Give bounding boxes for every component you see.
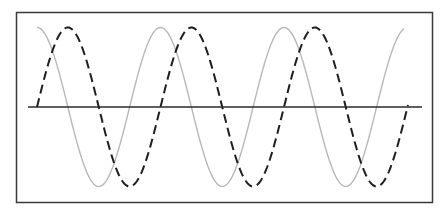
wave-diagram xyxy=(0,0,444,213)
